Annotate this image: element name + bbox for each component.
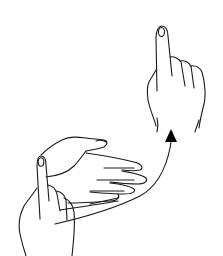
hands-drawing (0, 0, 223, 256)
illustration-canvas: Line drawing of two hands: lower-left ha… (0, 0, 223, 256)
arrow-head-icon (165, 129, 177, 142)
upper-hand-icon (147, 26, 205, 132)
lower-hand-icon (19, 137, 146, 256)
